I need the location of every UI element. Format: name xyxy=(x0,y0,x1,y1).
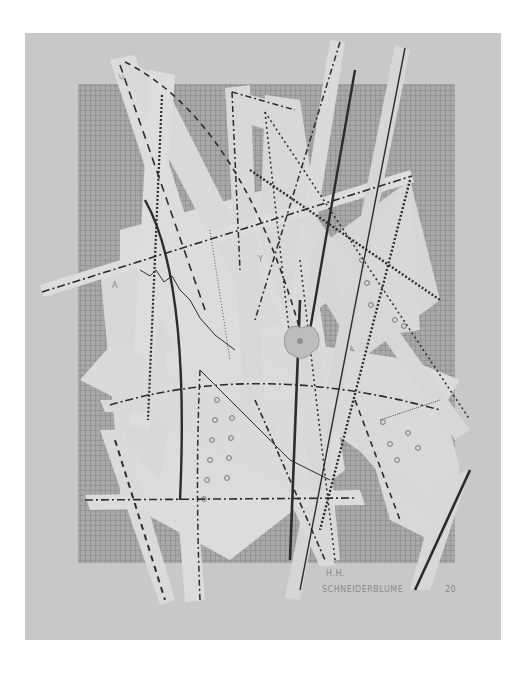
artist-initials: H.H. xyxy=(326,569,345,578)
svg-text:A: A xyxy=(112,281,118,290)
svg-text:Y: Y xyxy=(257,255,263,264)
artwork-title: SCHNEIDERBLUME xyxy=(322,585,403,594)
collage-artwork: Ⴑ A Y H.H. SCHNEIDERBLUME 20 xyxy=(0,0,524,673)
artwork-year: 20 xyxy=(445,585,456,594)
